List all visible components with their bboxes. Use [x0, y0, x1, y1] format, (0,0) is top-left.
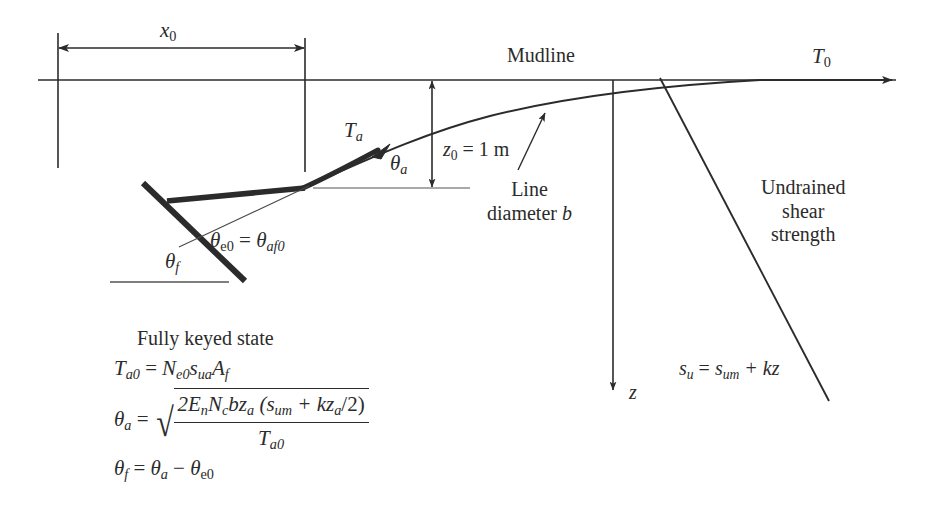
- equation-theta-a-fraction: 2EnNcbza (sum + kza/2) Ta0: [174, 388, 369, 454]
- equation-Ta0-rhs: Ne0suaAf: [162, 356, 229, 383]
- fraction-denominator: Ta0: [254, 423, 288, 454]
- z0-label: z0 = 1 m: [443, 138, 509, 164]
- inverse-catenary-line: [303, 80, 760, 188]
- fraction-numerator: 2EnNcbza (sum + kza/2): [174, 390, 369, 423]
- shear-strength-equation-label: su = sum + kz: [679, 357, 779, 383]
- figure-canvas: x0 Mudline T0 Ta θa z0 = 1 m Line diamet…: [0, 0, 936, 520]
- theta-a-label: θa: [390, 151, 407, 178]
- equation-theta-f-rhs: θa − θe0: [150, 456, 214, 483]
- equation-theta-a-lhs: θa =: [114, 407, 149, 434]
- radical-sign: √: [156, 390, 174, 456]
- Ta-label: Ta: [344, 118, 363, 145]
- undrained-line2: shear: [761, 200, 845, 224]
- x0-label: x0: [160, 18, 176, 45]
- mooring-line-thick-segment: [303, 150, 378, 188]
- equation-theta-a: θa = √ 2EnNcbza (sum + kza/2) Ta0: [114, 388, 369, 454]
- equation-theta-f: θf = θa − θe0: [114, 456, 369, 483]
- fully-keyed-equations: Ta0 = Ne0suaAf θa = √ 2EnNcbza (sum + kz…: [114, 356, 369, 488]
- line-diameter-line1: Line: [487, 178, 572, 202]
- mudline-label: Mudline: [507, 44, 575, 68]
- undrained-line3: strength: [761, 223, 845, 247]
- line-diameter-label: Line diameter b: [487, 178, 572, 225]
- equation-theta-a-radical: √ 2EnNcbza (sum + kza/2) Ta0: [154, 388, 369, 454]
- undrained-line1: Undrained: [761, 176, 845, 200]
- anchor-shank: [167, 188, 305, 201]
- equation-Ta0-lhs: Ta0 =: [114, 356, 157, 383]
- equation-theta-f-lhs: θf =: [114, 456, 145, 483]
- fully-keyed-state-heading: Fully keyed state: [137, 327, 274, 351]
- line-diameter-leader: [518, 113, 545, 170]
- theta-f-label: θf: [165, 249, 179, 276]
- z-axis-label: z: [629, 381, 637, 405]
- equation-Ta0: Ta0 = Ne0suaAf: [114, 356, 369, 383]
- undrained-shear-strength-label: Undrained shear strength: [761, 176, 845, 247]
- T0-label: T0: [812, 44, 831, 71]
- line-diameter-line2: diameter b: [487, 202, 572, 226]
- theta-e0-equals-theta-af0-label: θe0 = θaf0: [210, 228, 285, 255]
